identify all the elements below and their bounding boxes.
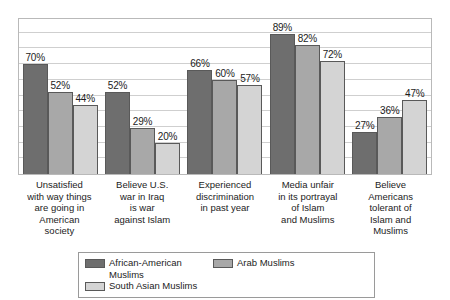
bar-group: 89%82%72% bbox=[270, 19, 345, 174]
category-label-line: discrimination bbox=[185, 191, 265, 203]
bar-value-label: 89% bbox=[273, 22, 292, 33]
bar-value-label: 52% bbox=[50, 80, 69, 91]
category-label-line: Americans bbox=[351, 191, 431, 203]
bar-slot: 72% bbox=[320, 19, 345, 174]
category-label: Media unfairin its portrayalof Islamand … bbox=[268, 179, 348, 225]
category-label: Believe U.S.war in Iraqis waragainst Isl… bbox=[102, 179, 182, 225]
category-label-line: Unsatisfied bbox=[19, 179, 99, 191]
category-axis-labels: Unsatisfiedwith way thingsare going inAm… bbox=[18, 179, 432, 237]
category-label: Unsatisfiedwith way thingsare going inAm… bbox=[19, 179, 99, 237]
legend-item[interactable]: South Asian Muslims bbox=[85, 280, 197, 292]
bar[interactable] bbox=[402, 100, 427, 174]
bar-slot: 66% bbox=[187, 19, 212, 174]
bar-slot: 27% bbox=[352, 19, 377, 174]
category-label-line: Believe bbox=[351, 179, 431, 191]
category-label-line: Experienced bbox=[185, 179, 265, 191]
bar-value-label: 60% bbox=[215, 68, 234, 79]
bar-group: 66%60%57% bbox=[187, 19, 262, 174]
bar[interactable] bbox=[295, 45, 320, 174]
bar-value-label: 57% bbox=[240, 73, 259, 84]
category-label-line: with way things bbox=[19, 191, 99, 203]
bar-slot: 47% bbox=[402, 19, 427, 174]
bar-slot: 70% bbox=[23, 19, 48, 174]
bar-group: 27%36%47% bbox=[352, 19, 427, 174]
bar-slot: 36% bbox=[377, 19, 402, 174]
bar-value-label: 36% bbox=[380, 105, 399, 116]
bar-slot: 82% bbox=[295, 19, 320, 174]
bar-slot: 89% bbox=[270, 19, 295, 174]
bar[interactable] bbox=[130, 128, 155, 174]
bar-value-label: 66% bbox=[190, 58, 209, 69]
bar-value-label: 20% bbox=[158, 131, 177, 142]
category-label-line: and Muslims bbox=[268, 214, 348, 226]
bar-value-label: 72% bbox=[323, 49, 342, 60]
bar-slot: 60% bbox=[212, 19, 237, 174]
category-label-line: society bbox=[19, 225, 99, 237]
bar-slot: 44% bbox=[73, 19, 98, 174]
legend-label: South Asian Muslims bbox=[109, 280, 197, 292]
bar-slot: 57% bbox=[237, 19, 262, 174]
category-label-line: are going in bbox=[19, 202, 99, 214]
bar-slot: 52% bbox=[48, 19, 73, 174]
category-label-line: is war bbox=[102, 202, 182, 214]
bar-slot: 29% bbox=[130, 19, 155, 174]
chart-legend: African-American MuslimsArab MuslimsSout… bbox=[78, 252, 375, 298]
legend-swatch-icon bbox=[85, 259, 105, 268]
category-label-line: against Islam bbox=[102, 214, 182, 226]
category-label-line: Believe U.S. bbox=[102, 179, 182, 191]
bar[interactable] bbox=[48, 92, 73, 174]
bar-value-label: 29% bbox=[133, 116, 152, 127]
legend-swatch-icon bbox=[213, 259, 233, 268]
bar[interactable] bbox=[73, 105, 98, 174]
bar[interactable] bbox=[237, 85, 262, 174]
bar-value-label: 82% bbox=[298, 33, 317, 44]
bar[interactable] bbox=[352, 132, 377, 174]
bar-group: 52%29%20% bbox=[105, 19, 180, 174]
bar-value-label: 47% bbox=[405, 88, 424, 99]
category-label-line: Muslims bbox=[351, 225, 431, 237]
category-label: Experienceddiscriminationin past year bbox=[185, 179, 265, 214]
bar-slot: 20% bbox=[155, 19, 180, 174]
bar-group: 70%52%44% bbox=[23, 19, 98, 174]
category-label-line: Islam and bbox=[351, 214, 431, 226]
bar[interactable] bbox=[377, 117, 402, 174]
category-label-line: in past year bbox=[185, 202, 265, 214]
bar-value-label: 44% bbox=[75, 93, 94, 104]
bar-value-label: 27% bbox=[355, 120, 374, 131]
category-label-line: American bbox=[19, 214, 99, 226]
legend-swatch-icon bbox=[85, 282, 105, 291]
bar[interactable] bbox=[155, 143, 180, 174]
legend-item[interactable]: African-American Muslims bbox=[85, 257, 207, 280]
bar-value-label: 52% bbox=[108, 80, 127, 91]
plot-area: 70%52%44%52%29%20%66%60%57%89%82%72%27%3… bbox=[18, 18, 432, 175]
legend-label: African-American Muslims bbox=[109, 257, 207, 280]
bar-groups: 70%52%44%52%29%20%66%60%57%89%82%72%27%3… bbox=[19, 19, 431, 174]
category-label-line: tolerant of bbox=[351, 202, 431, 214]
bar[interactable] bbox=[105, 92, 130, 174]
bar[interactable] bbox=[270, 34, 295, 174]
category-label-line: war in Iraq bbox=[102, 191, 182, 203]
bar[interactable] bbox=[23, 64, 48, 174]
bar[interactable] bbox=[212, 80, 237, 174]
bar-chart: 70%52%44%52%29%20%66%60%57%89%82%72%27%3… bbox=[0, 0, 450, 300]
bar[interactable] bbox=[187, 70, 212, 174]
category-label-line: of Islam bbox=[268, 202, 348, 214]
bar-value-label: 70% bbox=[25, 52, 44, 63]
legend-item[interactable]: Arab Muslims bbox=[213, 257, 295, 269]
category-label-line: in its portrayal bbox=[268, 191, 348, 203]
bar[interactable] bbox=[320, 61, 345, 174]
bar-slot: 52% bbox=[105, 19, 130, 174]
category-label-line: Media unfair bbox=[268, 179, 348, 191]
category-label: BelieveAmericanstolerant ofIslam andMusl… bbox=[351, 179, 431, 237]
legend-label: Arab Muslims bbox=[237, 257, 295, 269]
